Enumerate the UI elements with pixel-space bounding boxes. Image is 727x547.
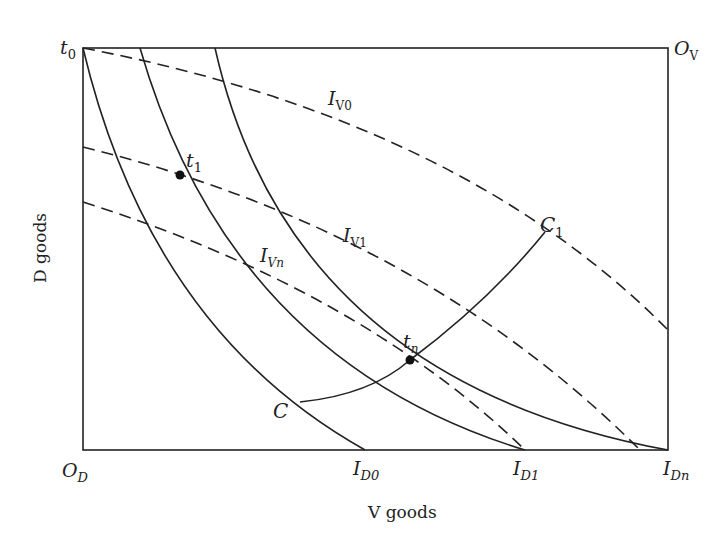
label-c: C [273,399,288,423]
label-c1: C1 [540,213,564,240]
label-tn: tn [403,330,418,356]
point-tn [406,356,415,365]
label-iv0: IV0 [327,87,352,113]
label-idn: IDn [662,457,689,483]
x-axis-label: V goods [367,502,437,522]
point-t1 [176,171,185,180]
y-axis-label: D goods [30,213,50,283]
edgeworth-box-diagram: t0 OV OD ID0 ID1 IDn IV0 IV1 IVn t1 tn C… [0,0,727,547]
label-ivn: IVn [259,244,284,270]
contract-curve [300,232,545,402]
edgeworth-box-frame [83,48,668,450]
indifference-curve-v1 [83,147,640,450]
label-iv1: IV1 [342,224,367,250]
label-id0: ID0 [352,457,379,483]
indifference-curve-v0 [83,48,668,330]
corner-label-t0: t0 [60,36,76,62]
label-id1: ID1 [512,457,539,483]
indifference-curve-d0 [83,48,365,450]
corner-label-od: OD [62,459,89,485]
indifference-curve-dn [215,48,668,450]
corner-label-ov: OV [674,37,699,63]
